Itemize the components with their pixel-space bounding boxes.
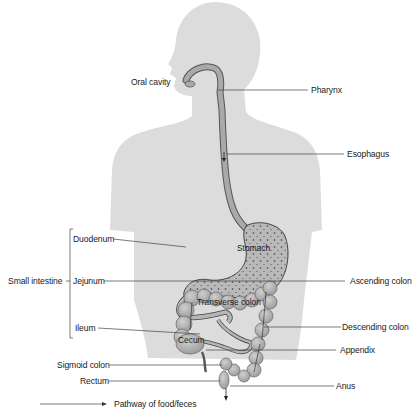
label-appendix: Appendix <box>340 345 375 355</box>
label-anus: Anus <box>336 381 355 391</box>
label-duodenum: Duodenum <box>73 234 114 244</box>
label-small-intestine: Small intestine <box>8 276 62 286</box>
legend-pathway-label: Pathway of food/feces <box>114 399 196 409</box>
label-jejunum: Jejunum <box>73 276 105 286</box>
label-sigmoid-colon: Sigmoid colon <box>57 360 110 370</box>
label-ascending-colon: Ascending colon <box>350 276 412 286</box>
label-esophagus: Esophagus <box>347 149 389 159</box>
label-pharynx: Pharynx <box>311 85 342 95</box>
label-oral-cavity: Oral cavity <box>131 77 171 87</box>
label-ileum: Ileum <box>75 323 96 333</box>
label-rectum: Rectum <box>80 376 109 386</box>
label-stomach: Stomach <box>237 243 270 253</box>
digestive-system-diagram: Oral cavity Pharynx Esophagus Stomach Du… <box>0 0 415 415</box>
legend-arrow-icon <box>102 402 107 406</box>
label-transverse-colon: Transverse colon <box>197 297 261 307</box>
label-cecum: Cecum <box>178 335 205 345</box>
label-descending-colon: Descending colon <box>342 322 409 332</box>
